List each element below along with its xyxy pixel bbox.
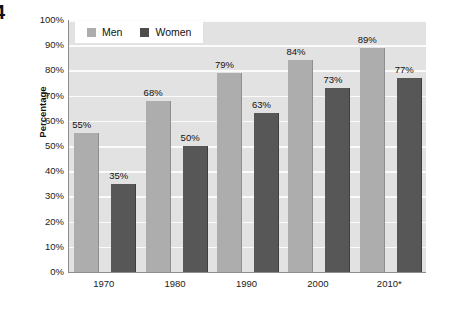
bar-value-label: 73% — [323, 75, 342, 85]
legend-entry-men[interactable]: Men — [87, 26, 122, 38]
x-axis-tick-label: 2000 — [282, 278, 353, 289]
y-axis-tick-label: 80% — [24, 65, 64, 75]
x-axis-tick-label: 1980 — [139, 278, 210, 289]
legend-label: Women — [155, 26, 191, 38]
bar-value-label: 84% — [286, 47, 305, 57]
bar-value-label: 89% — [358, 35, 377, 45]
legend-swatch-men — [87, 28, 96, 37]
y-axis-tick-label: 100% — [24, 15, 64, 25]
bar-women-1970[interactable] — [111, 184, 136, 272]
y-axis-tick-label: 90% — [24, 40, 64, 50]
y-axis-tick-label: 70% — [24, 91, 64, 101]
y-axis-tick-label: 60% — [24, 116, 64, 126]
x-axis-tick-label: 1990 — [211, 278, 282, 289]
bar-men-2010[interactable] — [360, 48, 385, 272]
bar-women-2000[interactable] — [325, 88, 350, 272]
gridline — [69, 45, 426, 47]
y-axis-tick-label: 30% — [24, 191, 64, 201]
x-axis-tick-label: 2010* — [354, 278, 425, 289]
legend-entry-women[interactable]: Women — [140, 26, 191, 38]
chart-legend: MenWomen — [75, 21, 203, 43]
bar-value-label: 55% — [72, 120, 91, 130]
y-axis-tick-labels: 0%10%20%30%40%50%60%70%80%90%100% — [24, 0, 64, 312]
bar-value-label: 68% — [144, 88, 163, 98]
bar-men-2000[interactable] — [288, 60, 313, 272]
bar-value-label: 79% — [215, 60, 234, 70]
bar-women-1980[interactable] — [183, 146, 208, 272]
bar-value-label: 35% — [109, 171, 128, 181]
y-axis-tick-label: 0% — [24, 267, 64, 277]
legend-swatch-women — [140, 28, 149, 37]
bar-value-label: 63% — [252, 100, 271, 110]
bar-men-1970[interactable] — [74, 133, 99, 272]
y-axis-tick-label: 10% — [24, 242, 64, 252]
legend-label: Men — [102, 26, 122, 38]
y-axis-tick-label: 20% — [24, 217, 64, 227]
y-axis-tick-label: 50% — [24, 141, 64, 151]
bar-chart: Percentage 0%10%20%30%40%50%60%70%80%90%… — [0, 0, 450, 312]
plot-area: 55%35%68%50%79%63%84%73%89%77% — [68, 20, 426, 273]
bar-men-1980[interactable] — [146, 101, 171, 272]
bar-men-1990[interactable] — [217, 73, 242, 272]
bar-women-2010[interactable] — [397, 78, 422, 272]
x-axis-tick-label: 1970 — [68, 278, 139, 289]
bar-value-label: 50% — [181, 133, 200, 143]
bar-value-label: 77% — [395, 65, 414, 75]
y-axis-tick-label: 40% — [24, 166, 64, 176]
bar-women-1990[interactable] — [254, 113, 279, 272]
